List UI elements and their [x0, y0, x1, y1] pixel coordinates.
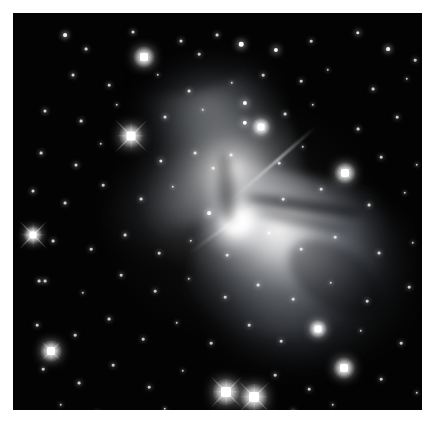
star: [262, 74, 265, 77]
star: [268, 232, 271, 235]
star: [400, 342, 403, 345]
star: [300, 80, 303, 83]
star: [396, 116, 399, 119]
star: [108, 318, 111, 321]
star: [52, 240, 55, 243]
star: [278, 162, 281, 165]
star: [380, 156, 383, 159]
star: [282, 198, 285, 201]
star: [102, 184, 105, 187]
star: [380, 378, 383, 381]
star: [36, 324, 39, 327]
star: [198, 53, 201, 56]
star: [366, 300, 369, 303]
star: [112, 364, 115, 367]
star: [378, 252, 381, 255]
star-core: [315, 326, 322, 333]
star: [210, 342, 213, 345]
star: [42, 368, 45, 371]
star: [334, 236, 337, 239]
star: [386, 47, 390, 51]
star: [148, 386, 151, 389]
star: [248, 324, 251, 327]
star: [158, 252, 161, 255]
star-core: [258, 124, 265, 131]
star: [80, 120, 83, 123]
star: [90, 248, 93, 251]
star: [372, 88, 375, 91]
sky-background: [13, 13, 422, 410]
star: [44, 280, 47, 283]
star: [300, 248, 303, 251]
astronomy-photograph: [13, 13, 422, 410]
star: [239, 42, 244, 47]
star: [212, 167, 215, 170]
star: [63, 33, 67, 37]
star: [124, 234, 127, 237]
star: [216, 34, 219, 37]
star-core: [221, 387, 231, 397]
star: [120, 274, 123, 277]
star: [108, 84, 111, 87]
star: [292, 298, 295, 301]
page-canvas: [0, 0, 440, 426]
star: [154, 290, 157, 293]
star: [85, 48, 88, 51]
star: [320, 188, 323, 191]
star: [74, 334, 77, 337]
star-core: [30, 232, 37, 239]
star: [78, 382, 81, 385]
star-core: [341, 169, 349, 177]
star: [274, 374, 277, 377]
star: [188, 90, 191, 93]
star: [207, 211, 211, 215]
star: [408, 286, 411, 289]
star-core: [140, 53, 148, 61]
star: [140, 198, 143, 201]
star: [308, 388, 311, 391]
star: [368, 204, 371, 207]
star: [224, 296, 227, 299]
star: [194, 152, 197, 155]
star: [230, 154, 233, 157]
star-core: [249, 392, 259, 402]
star: [310, 40, 313, 43]
star: [414, 59, 417, 62]
star: [284, 113, 287, 116]
star: [226, 254, 229, 257]
star: [40, 152, 43, 155]
star: [142, 338, 145, 341]
star-core: [127, 132, 136, 141]
star: [280, 340, 283, 343]
star-core: [47, 347, 55, 355]
star: [64, 202, 67, 205]
star: [357, 128, 360, 131]
star: [38, 280, 41, 283]
star: [257, 284, 260, 287]
star-core: [340, 364, 348, 372]
